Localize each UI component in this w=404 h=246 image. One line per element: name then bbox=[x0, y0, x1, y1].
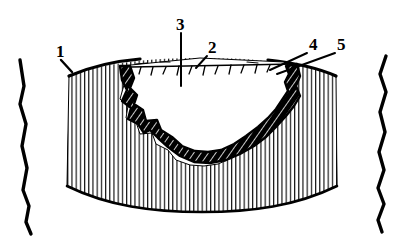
callout-label-2: 2 bbox=[208, 38, 217, 57]
callout-label-1: 1 bbox=[56, 42, 65, 61]
figure-container: 1 2 3 4 5 bbox=[0, 0, 404, 246]
callout-label-3: 3 bbox=[176, 15, 185, 34]
technical-diagram: 1 2 3 4 5 bbox=[0, 0, 404, 246]
callout-label-4: 4 bbox=[309, 35, 318, 54]
callout-label-5: 5 bbox=[337, 35, 346, 54]
